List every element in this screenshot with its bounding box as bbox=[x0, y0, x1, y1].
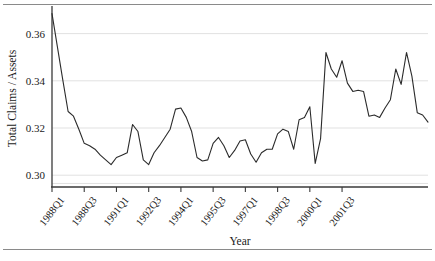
figure-container: 0.300.320.340.36 1988Q11988Q31991Q11992Q… bbox=[0, 0, 435, 261]
x-tick-label: 1988Q3 bbox=[69, 194, 99, 227]
x-tick-label: 1988Q1 bbox=[37, 194, 67, 227]
y-tick-label: 0.34 bbox=[26, 75, 46, 87]
x-tick-label: 2000Q1 bbox=[295, 194, 325, 227]
x-tick-label: 1991Q1 bbox=[102, 194, 132, 227]
y-axis-tick-labels: 0.300.320.340.36 bbox=[26, 28, 46, 182]
y-axis-title: Total Claims / Assets bbox=[6, 49, 18, 147]
chart-svg: 0.300.320.340.36 1988Q11988Q31991Q11992Q… bbox=[0, 0, 435, 261]
y-tick-label: 0.36 bbox=[26, 28, 46, 40]
x-tick-label: 1994Q1 bbox=[166, 194, 196, 227]
x-axis-title: Year bbox=[229, 235, 250, 247]
data-series-line bbox=[52, 14, 428, 165]
y-tick-label: 0.30 bbox=[26, 169, 46, 181]
x-tick-label: 2001Q3 bbox=[327, 194, 357, 227]
x-axis-tick-labels: 1988Q11988Q31991Q11992Q31994Q11995Q31997… bbox=[37, 194, 357, 227]
y-tick-label: 0.32 bbox=[26, 122, 45, 134]
x-tick-label: 1995Q3 bbox=[198, 194, 228, 227]
line-chart: 0.300.320.340.36 1988Q11988Q31991Q11992Q… bbox=[0, 0, 435, 261]
x-tick-label: 1992Q3 bbox=[134, 194, 164, 227]
x-tick-label: 1997Q1 bbox=[230, 194, 260, 227]
x-tick-label: 1998Q3 bbox=[263, 194, 293, 227]
gridlines-group bbox=[52, 34, 428, 184]
x-axis-tick-marks bbox=[52, 187, 342, 192]
